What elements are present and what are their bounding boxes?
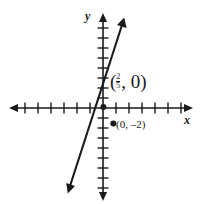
y-axis-top-arrowhead: [99, 13, 107, 22]
y-axis-label: y: [85, 10, 90, 22]
fraction-denominator: 5: [116, 81, 120, 90]
line-segment: [70, 25, 122, 186]
x-intercept-label: ( 2 5 , 0): [110, 73, 147, 91]
line-upper-arrowhead: [117, 18, 127, 29]
line-lower-arrowhead: [66, 183, 75, 194]
x-intercept-label-rest: , 0): [121, 74, 146, 90]
x-intercept-point-marker: [100, 104, 106, 110]
x-axis-right-arrowhead: [184, 104, 193, 112]
y-axis-bottom-arrowhead: [99, 192, 107, 201]
plotted-line-series: [66, 18, 126, 194]
x-axis-label: x: [184, 114, 190, 126]
y-intercept-label: (0, –2): [116, 119, 145, 130]
coordinate-plane-graph: [0, 0, 202, 204]
fraction-numerator: 2: [116, 73, 120, 81]
fraction-two-fifths: 2 5: [116, 73, 120, 91]
x-axis-left-arrowhead: [9, 104, 18, 112]
